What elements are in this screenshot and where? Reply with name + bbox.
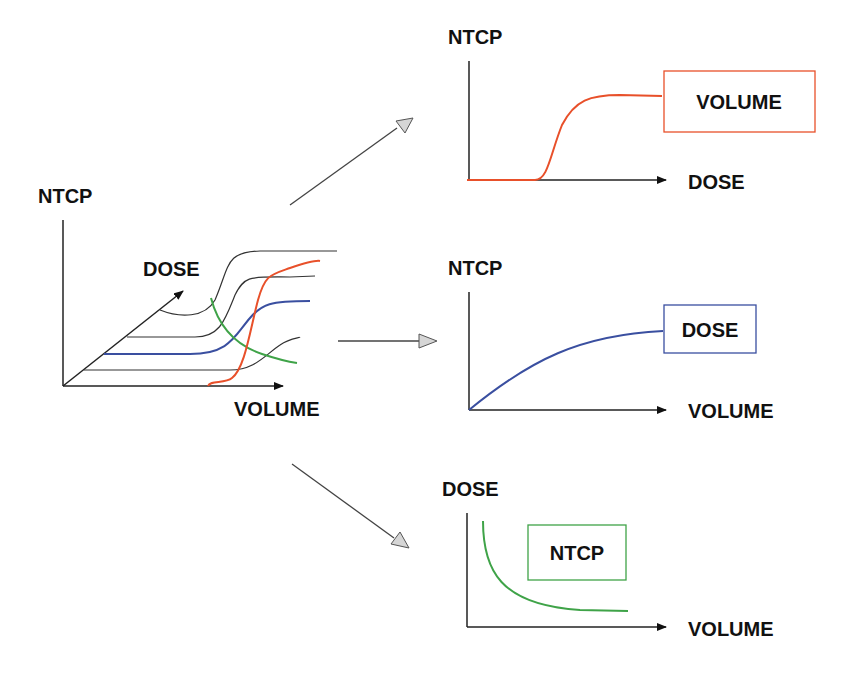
middle-x-label: VOLUME bbox=[688, 400, 774, 422]
top-curve-red bbox=[467, 95, 662, 180]
arrow-to-top-panel bbox=[290, 118, 413, 205]
ntcp-diagram: NTCP DOSE VOLUME NTCP DOSE VOLUME bbox=[0, 0, 850, 677]
curve-green-iso-ntcp bbox=[211, 298, 297, 363]
main-y-label: NTCP bbox=[38, 185, 92, 207]
curve-red-volume-slice bbox=[208, 261, 320, 386]
arrow-to-middle-panel bbox=[338, 334, 437, 348]
main-depth-label: DOSE bbox=[143, 258, 200, 280]
bottom-y-label: DOSE bbox=[442, 478, 499, 500]
middle-box-label: DOSE bbox=[682, 319, 739, 341]
top-y-label: NTCP bbox=[448, 26, 502, 48]
middle-curve-blue bbox=[469, 331, 663, 410]
top-x-label: DOSE bbox=[688, 171, 745, 193]
top-box-label: VOLUME bbox=[696, 91, 782, 113]
bottom-x-label: VOLUME bbox=[688, 618, 774, 640]
arrow-to-bottom-panel bbox=[292, 464, 409, 548]
panel-middle: NTCP VOLUME DOSE bbox=[448, 257, 774, 422]
panel-top: NTCP DOSE VOLUME bbox=[448, 26, 815, 193]
bottom-box-label: NTCP bbox=[550, 542, 604, 564]
panel-bottom: DOSE VOLUME NTCP bbox=[442, 478, 774, 640]
main-x-label: VOLUME bbox=[234, 398, 320, 420]
main-plot: NTCP DOSE VOLUME bbox=[38, 185, 337, 420]
main-depth-axis bbox=[63, 291, 183, 386]
middle-y-label: NTCP bbox=[448, 257, 502, 279]
